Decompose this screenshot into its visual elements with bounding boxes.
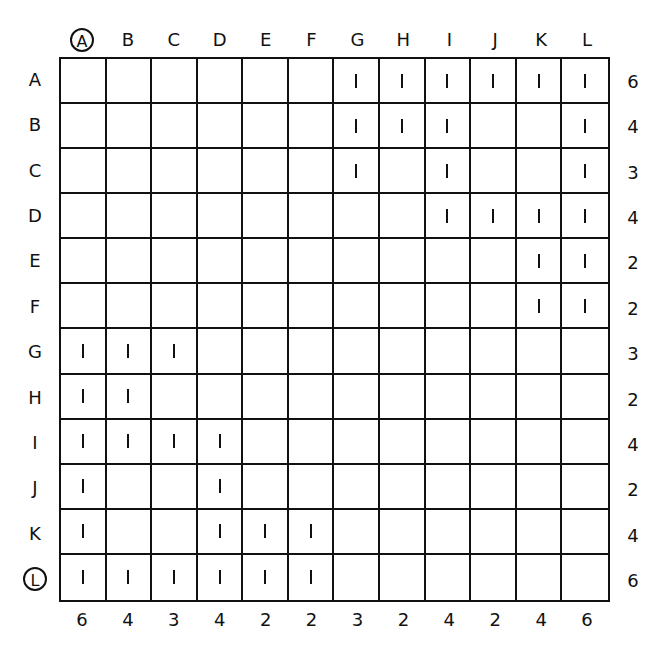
adjacency-matrix-diagram: ABCDEFGHIJKL ABCDEFGHIJKL 643422324246 6… — [0, 0, 664, 648]
column-sum: 6 — [59, 608, 105, 632]
matrix-cell-j-i — [426, 465, 472, 510]
matrix-cell-k-e — [243, 510, 289, 555]
matrix-cell-a-j — [471, 59, 517, 104]
matrix-cell-g-i — [426, 329, 472, 374]
matrix-cell-f-a — [61, 284, 107, 329]
cell-mark-one — [355, 164, 357, 178]
matrix-cell-k-f — [289, 510, 335, 555]
column-label-b: B — [105, 28, 151, 52]
matrix-cell-i-k — [517, 420, 563, 465]
matrix-cell-b-d — [198, 104, 244, 149]
matrix-cell-l-c — [152, 555, 198, 600]
row-label-text: E — [29, 250, 40, 271]
matrix-cell-h-j — [471, 375, 517, 420]
matrix-cell-b-h — [380, 104, 426, 149]
cell-mark-one — [82, 524, 84, 538]
row-label-text: B — [29, 114, 41, 135]
matrix-cell-c-f — [289, 149, 335, 194]
matrix-cell-g-k — [517, 329, 563, 374]
matrix-cell-c-b — [107, 149, 153, 194]
cell-mark-one — [538, 74, 540, 88]
column-label-text: F — [306, 29, 316, 50]
matrix-cell-d-e — [243, 194, 289, 239]
row-label-i: I — [12, 431, 58, 455]
row-label-text: H — [28, 387, 42, 408]
matrix-cell-b-l — [562, 104, 608, 149]
matrix-cell-l-i — [426, 555, 472, 600]
cell-mark-one — [584, 119, 586, 133]
cell-mark-one — [584, 299, 586, 313]
row-label-b: B — [12, 113, 58, 137]
column-label-l: L — [564, 28, 610, 52]
matrix-cell-k-b — [107, 510, 153, 555]
cell-mark-one — [584, 209, 586, 223]
matrix-cell-c-i — [426, 149, 472, 194]
matrix-cell-i-h — [380, 420, 426, 465]
row-label-text: C — [29, 160, 42, 181]
row-sum: 4 — [610, 115, 656, 139]
matrix-cell-i-j — [471, 420, 517, 465]
cell-mark-one — [401, 74, 403, 88]
matrix-cell-g-j — [471, 329, 517, 374]
cell-mark-one — [127, 389, 129, 403]
row-label-a: A — [12, 68, 58, 92]
row-sum: 4 — [610, 206, 656, 230]
column-sum: 2 — [472, 608, 518, 632]
row-sum: 4 — [610, 524, 656, 548]
row-sum: 2 — [610, 297, 656, 321]
matrix-cell-e-f — [289, 239, 335, 284]
row-label-g: G — [12, 340, 58, 364]
row-sum: 6 — [610, 569, 656, 593]
matrix-cell-i-d — [198, 420, 244, 465]
matrix-cell-e-e — [243, 239, 289, 284]
matrix-cell-b-g — [334, 104, 380, 149]
matrix-cell-l-g — [334, 555, 380, 600]
row-label-c: C — [12, 159, 58, 183]
matrix-cell-f-i — [426, 284, 472, 329]
row-label-text: I — [32, 432, 37, 453]
matrix-cell-j-j — [471, 465, 517, 510]
matrix-cell-k-a — [61, 510, 107, 555]
matrix-cell-l-e — [243, 555, 289, 600]
column-label-i: I — [426, 28, 472, 52]
cell-mark-one — [219, 479, 221, 493]
column-label-text: C — [167, 29, 180, 50]
matrix-cell-b-c — [152, 104, 198, 149]
matrix-cell-g-h — [380, 329, 426, 374]
cell-mark-one — [82, 434, 84, 448]
matrix-cell-g-g — [334, 329, 380, 374]
row-label-e: E — [12, 249, 58, 273]
matrix-cell-d-l — [562, 194, 608, 239]
row-label-h: H — [12, 386, 58, 410]
matrix-cell-f-h — [380, 284, 426, 329]
matrix-cell-k-g — [334, 510, 380, 555]
matrix-cell-a-d — [198, 59, 244, 104]
cell-mark-one — [401, 119, 403, 133]
matrix-cell-a-c — [152, 59, 198, 104]
column-sum: 3 — [334, 608, 380, 632]
matrix-cell-e-c — [152, 239, 198, 284]
cell-mark-one — [173, 570, 175, 584]
matrix-cell-j-k — [517, 465, 563, 510]
cell-mark-one — [264, 570, 266, 584]
matrix-cell-a-k — [517, 59, 563, 104]
matrix-cell-e-g — [334, 239, 380, 284]
matrix-cell-f-k — [517, 284, 563, 329]
matrix-cell-e-d — [198, 239, 244, 284]
matrix-cell-a-g — [334, 59, 380, 104]
column-label-d: D — [197, 28, 243, 52]
matrix-cell-b-i — [426, 104, 472, 149]
matrix-cell-f-f — [289, 284, 335, 329]
row-sum: 2 — [610, 478, 656, 502]
column-label-text: G — [350, 29, 364, 50]
matrix-cell-a-i — [426, 59, 472, 104]
column-sum: 2 — [243, 608, 289, 632]
column-sum: 2 — [380, 608, 426, 632]
cell-mark-one — [584, 74, 586, 88]
matrix-cell-d-f — [289, 194, 335, 239]
matrix-cell-c-c — [152, 149, 198, 194]
cell-mark-one — [584, 254, 586, 268]
column-label-text: B — [122, 29, 134, 50]
cell-mark-one — [538, 209, 540, 223]
matrix-cell-j-f — [289, 465, 335, 510]
